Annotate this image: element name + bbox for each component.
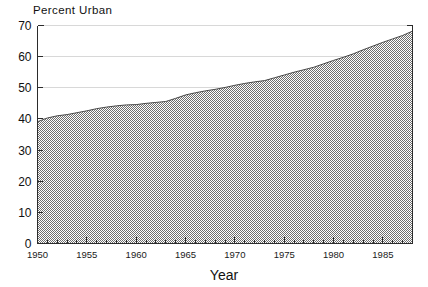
percent-urban-area-chart: 19501955196019651970197519801985 0102030… [0, 0, 428, 287]
x-tick-label-1955: 1955 [76, 249, 97, 260]
x-tick-label-1975: 1975 [274, 249, 295, 260]
y-tick-label-40: 40 [18, 112, 32, 126]
y-tick-label-30: 30 [18, 144, 32, 158]
x-axis-label: Year [210, 267, 239, 283]
y-tick-label-60: 60 [18, 50, 32, 64]
y-tick-label-10: 10 [18, 206, 32, 220]
chart-figure: 19501955196019651970197519801985 0102030… [0, 0, 428, 287]
x-tick-label-1970: 1970 [224, 249, 245, 260]
x-tick-label-1985: 1985 [372, 249, 393, 260]
y-tick-label-0: 0 [25, 237, 32, 251]
y-tick-label-20: 20 [18, 175, 32, 189]
x-tick-label-1965: 1965 [175, 249, 196, 260]
x-tick-label-1960: 1960 [126, 249, 147, 260]
y-tick-label-50: 50 [18, 81, 32, 95]
x-tick-label-1980: 1980 [323, 249, 344, 260]
chart-title: Percent Urban [33, 4, 112, 16]
y-tick-label-70: 70 [18, 19, 32, 33]
